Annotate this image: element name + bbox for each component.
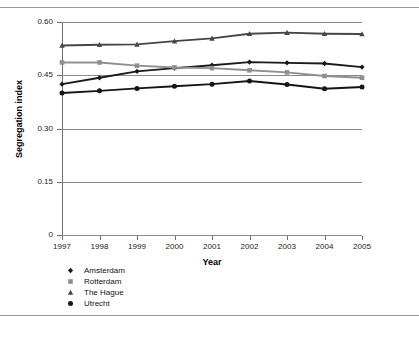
x-axis-tick-label: 1998 [83, 242, 117, 251]
x-axis-tick [362, 236, 363, 240]
data-point-marker [172, 84, 177, 89]
x-axis-tick [250, 236, 251, 240]
plot-area [62, 22, 362, 235]
x-axis-tick-label: 2002 [233, 242, 267, 251]
x-axis-tick [100, 236, 101, 240]
data-point-marker [68, 279, 73, 284]
data-point-marker [247, 78, 252, 83]
y-axis-tick-label: 0.30 [13, 125, 53, 133]
data-point-marker [322, 74, 327, 79]
y-axis-tick-label: 0.45 [13, 71, 53, 79]
circle-marker-icon [63, 298, 77, 309]
x-axis-tick [212, 236, 213, 240]
series-utrecht [60, 78, 365, 95]
data-point-marker [60, 60, 65, 65]
data-point-marker [172, 65, 177, 70]
data-point-marker [97, 88, 102, 93]
legend-item-amsterdam[interactable]: Amsterdam [63, 265, 213, 276]
chart-legend: AmsterdamRotterdamThe HagueUtrecht [63, 265, 213, 309]
y-axis-tick-label: 0.15 [13, 178, 53, 186]
data-point-marker [359, 64, 364, 69]
data-point-marker [360, 84, 365, 89]
page-artifact-text: . . . . . [0, 0, 419, 7]
data-point-marker [67, 268, 72, 273]
x-axis-tick-label: 2005 [345, 242, 379, 251]
data-point-marker [60, 91, 65, 96]
data-point-marker [285, 70, 290, 75]
data-point-marker [68, 301, 73, 306]
x-axis-tick-label: 1999 [120, 242, 154, 251]
square-marker-icon [63, 276, 77, 287]
data-point-marker [135, 63, 140, 68]
data-point-marker [59, 81, 64, 86]
legend-item-rotterdam[interactable]: Rotterdam [63, 276, 213, 287]
data-point-marker [285, 82, 290, 87]
legend-label: Rotterdam [77, 277, 121, 286]
x-axis-tick [325, 236, 326, 240]
series-the-hague [59, 30, 364, 48]
triangle-marker-icon [63, 287, 77, 298]
page-top-rule [0, 7, 419, 8]
y-axis-title: Segregation index [14, 69, 24, 169]
x-axis-tick-label: 2004 [308, 242, 342, 251]
x-axis-tick [62, 236, 63, 240]
legend-item-the-hague[interactable]: The Hague [63, 287, 213, 298]
data-point-marker [210, 66, 215, 71]
legend-label: Amsterdam [77, 266, 125, 275]
y-axis-tick-label: 0 [13, 231, 53, 239]
page-bottom-rule [0, 315, 419, 316]
x-axis-tick [137, 236, 138, 240]
data-point-marker [247, 68, 252, 73]
legend-label: The Hague [77, 288, 124, 297]
x-axis-tick-label: 2000 [158, 242, 192, 251]
diamond-marker-icon [63, 265, 77, 276]
chart-page: . . . . . Segregation index 00.150.300.4… [0, 0, 419, 337]
data-point-marker [360, 75, 365, 80]
x-axis-tick-label: 2001 [195, 242, 229, 251]
data-point-marker [322, 86, 327, 91]
data-point-marker [247, 59, 252, 64]
data-point-marker [135, 86, 140, 91]
x-axis-tick [287, 236, 288, 240]
line-chart: Segregation index 00.150.300.450.60 1997… [0, 10, 419, 260]
data-point-marker [284, 60, 289, 65]
x-axis-tick-label: 2003 [270, 242, 304, 251]
data-point-marker [210, 82, 215, 87]
legend-item-utrecht[interactable]: Utrecht [63, 298, 213, 309]
data-point-marker [134, 69, 139, 74]
gridline [62, 235, 362, 236]
data-point-marker [97, 75, 102, 80]
x-axis-tick-label: 1997 [45, 242, 79, 251]
series-layer [62, 22, 362, 235]
data-point-marker [97, 60, 102, 65]
x-axis-tick [175, 236, 176, 240]
data-point-marker [67, 290, 72, 295]
y-axis-tick-label: 0.60 [13, 18, 53, 26]
legend-label: Utrecht [77, 299, 110, 308]
data-point-marker [322, 61, 327, 66]
